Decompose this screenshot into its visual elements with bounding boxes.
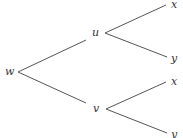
node-w: w xyxy=(5,65,15,78)
edge-v-y xyxy=(106,109,167,133)
edge-v-x xyxy=(106,82,166,109)
node-y-upper: y xyxy=(170,52,178,65)
node-x-lower: x xyxy=(171,75,178,88)
edge-w-v xyxy=(18,72,86,103)
edge-u-y xyxy=(105,33,167,57)
node-y-lower: y xyxy=(170,128,178,138)
tree-diagram: w u v x y x y xyxy=(0,0,183,138)
edge-w-u xyxy=(18,40,86,72)
node-x-upper: x xyxy=(171,0,178,11)
node-v: v xyxy=(93,102,100,115)
node-u: u xyxy=(92,26,99,39)
edge-u-x xyxy=(105,5,166,33)
